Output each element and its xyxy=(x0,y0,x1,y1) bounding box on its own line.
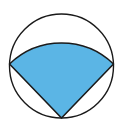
geometry-diagram xyxy=(0,0,123,127)
shaded-sector xyxy=(10,43,114,118)
